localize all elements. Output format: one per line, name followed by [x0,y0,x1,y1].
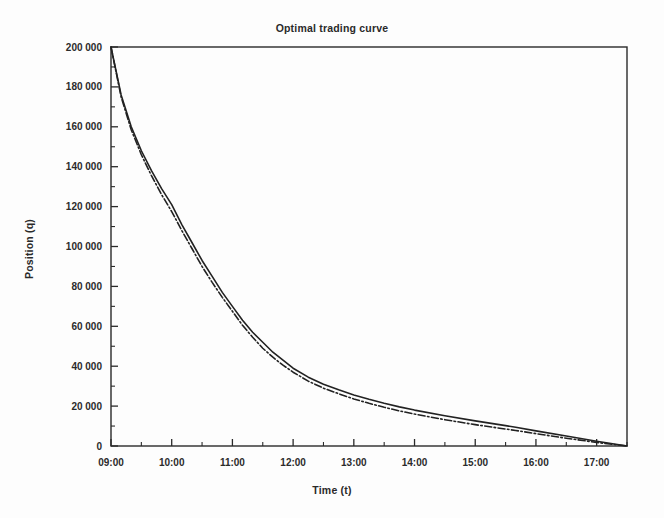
x-tick-label: 11:00 [220,457,245,468]
x-tick-label: 15:00 [462,457,488,468]
x-tick-label: 17:00 [584,457,610,468]
y-tick-label: 20 000 [71,401,102,412]
data-series-group [111,47,627,446]
plot-area: 09:0010:0011:0012:0013:0014:0015:0016:00… [0,0,664,518]
y-tick-label: 40 000 [71,361,102,372]
x-axis-tick-labels: 09:0010:0011:0012:0013:0014:0015:0016:00… [98,457,610,468]
plot-frame [111,47,627,446]
y-tick-label: 60 000 [71,321,102,332]
x-tick-label: 14:00 [402,457,428,468]
y-tick-label: 140 000 [66,161,103,172]
x-tick-label: 09:00 [98,457,124,468]
x-axis-ticks [111,439,627,446]
y-tick-label: 100 000 [66,241,103,252]
y-tick-label: 200 000 [66,42,103,53]
x-tick-label: 12:00 [280,457,306,468]
y-tick-label: 0 [96,441,102,452]
y-tick-label: 80 000 [71,281,102,292]
y-axis-tick-labels: 020 00040 00060 00080 000100 000120 0001… [66,42,103,452]
figure-canvas: Optimal trading curve Time (t) Position … [0,0,664,518]
x-tick-label: 10:00 [159,457,185,468]
y-tick-label: 180 000 [66,81,103,92]
series-line-solid-curve [111,47,627,446]
x-tick-label: 13:00 [341,457,367,468]
y-tick-label: 160 000 [66,121,103,132]
y-axis-ticks [111,47,118,446]
x-tick-label: 16:00 [523,457,549,468]
series-line-dash-dot-curve [111,47,627,446]
plot-frame-rect [111,47,627,446]
y-tick-label: 120 000 [66,201,103,212]
